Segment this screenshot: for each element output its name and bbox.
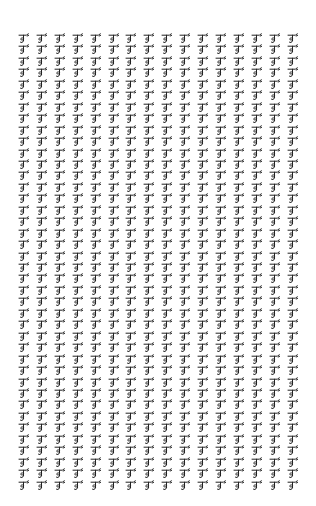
conjunct-glyph-icon: [17, 44, 31, 55]
repeated-glyph: [107, 44, 121, 55]
conjunct-glyph-icon: [17, 411, 31, 422]
conjunct-glyph-icon: [35, 251, 49, 262]
repeated-glyph: [107, 182, 121, 193]
repeated-glyph: [35, 251, 49, 262]
conjunct-glyph-icon: [268, 251, 282, 262]
repeated-glyph: [160, 411, 174, 422]
repeated-glyph: [142, 273, 156, 284]
conjunct-glyph-icon: [142, 399, 156, 410]
repeated-glyph: [196, 44, 210, 55]
repeated-glyph: [124, 205, 138, 216]
conjunct-glyph-icon: [250, 388, 264, 399]
conjunct-glyph-icon: [160, 33, 174, 44]
repeated-glyph: [35, 411, 49, 422]
conjunct-glyph-icon: [142, 182, 156, 193]
conjunct-glyph-icon: [17, 102, 31, 113]
conjunct-glyph-icon: [250, 251, 264, 262]
conjunct-glyph-icon: [71, 354, 85, 365]
repeated-glyph: [53, 308, 67, 319]
conjunct-glyph-icon: [142, 354, 156, 365]
conjunct-glyph-icon: [53, 113, 67, 124]
conjunct-glyph-icon: [53, 296, 67, 307]
conjunct-glyph-icon: [286, 331, 300, 342]
conjunct-glyph-icon: [268, 205, 282, 216]
repeated-glyph: [178, 342, 192, 353]
conjunct-glyph-icon: [250, 411, 264, 422]
repeated-glyph: [17, 354, 31, 365]
conjunct-glyph-icon: [17, 90, 31, 101]
repeated-glyph: [196, 388, 210, 399]
conjunct-glyph-icon: [160, 285, 174, 296]
conjunct-glyph-icon: [196, 216, 210, 227]
conjunct-glyph-icon: [250, 216, 264, 227]
conjunct-glyph-icon: [232, 216, 246, 227]
repeated-glyph: [250, 125, 264, 136]
conjunct-glyph-icon: [250, 354, 264, 365]
repeated-glyph: [142, 148, 156, 159]
conjunct-glyph-icon: [178, 125, 192, 136]
repeated-glyph: [286, 67, 300, 78]
repeated-glyph: [107, 411, 121, 422]
repeated-glyph: [71, 33, 85, 44]
conjunct-glyph-icon: [53, 44, 67, 55]
repeated-glyph: [286, 480, 300, 491]
conjunct-glyph-icon: [160, 170, 174, 181]
repeated-glyph: [17, 319, 31, 330]
repeated-glyph: [71, 113, 85, 124]
conjunct-glyph-icon: [124, 445, 138, 456]
conjunct-glyph-icon: [250, 422, 264, 433]
repeated-glyph: [268, 67, 282, 78]
repeated-glyph: [124, 434, 138, 445]
repeated-glyph: [53, 354, 67, 365]
repeated-glyph: [232, 102, 246, 113]
repeated-glyph: [214, 273, 228, 284]
conjunct-glyph-icon: [196, 228, 210, 239]
conjunct-glyph-icon: [53, 79, 67, 90]
repeated-glyph: [35, 56, 49, 67]
repeated-glyph: [250, 33, 264, 44]
conjunct-glyph-icon: [53, 399, 67, 410]
conjunct-glyph-icon: [71, 480, 85, 491]
repeated-glyph: [107, 216, 121, 227]
repeated-glyph: [286, 319, 300, 330]
repeated-glyph: [17, 445, 31, 456]
conjunct-glyph-icon: [124, 377, 138, 388]
repeated-glyph: [35, 434, 49, 445]
conjunct-glyph-icon: [142, 296, 156, 307]
repeated-glyph: [232, 457, 246, 468]
conjunct-glyph-icon: [268, 377, 282, 388]
conjunct-glyph-icon: [124, 182, 138, 193]
repeated-glyph: [250, 308, 264, 319]
repeated-glyph: [250, 182, 264, 193]
conjunct-glyph-icon: [268, 411, 282, 422]
conjunct-glyph-icon: [35, 331, 49, 342]
conjunct-glyph-icon: [35, 296, 49, 307]
repeated-glyph: [232, 67, 246, 78]
repeated-glyph: [196, 365, 210, 376]
repeated-glyph: [232, 480, 246, 491]
repeated-glyph: [232, 125, 246, 136]
repeated-glyph: [268, 125, 282, 136]
repeated-glyph: [35, 354, 49, 365]
conjunct-glyph-icon: [196, 399, 210, 410]
conjunct-glyph-icon: [53, 262, 67, 273]
repeated-glyph: [160, 262, 174, 273]
conjunct-glyph-icon: [89, 296, 103, 307]
conjunct-glyph-icon: [124, 228, 138, 239]
repeated-glyph: [214, 319, 228, 330]
repeated-glyph: [232, 377, 246, 388]
repeated-glyph: [268, 285, 282, 296]
conjunct-glyph-icon: [89, 399, 103, 410]
repeated-glyph: [35, 159, 49, 170]
repeated-glyph: [71, 399, 85, 410]
conjunct-glyph-icon: [232, 102, 246, 113]
repeated-glyph: [250, 102, 264, 113]
repeated-glyph: [53, 434, 67, 445]
repeated-glyph: [71, 422, 85, 433]
conjunct-glyph-icon: [160, 216, 174, 227]
repeated-glyph: [107, 33, 121, 44]
repeated-glyph: [250, 354, 264, 365]
repeated-glyph: [268, 182, 282, 193]
conjunct-glyph-icon: [178, 377, 192, 388]
conjunct-glyph-icon: [35, 273, 49, 284]
